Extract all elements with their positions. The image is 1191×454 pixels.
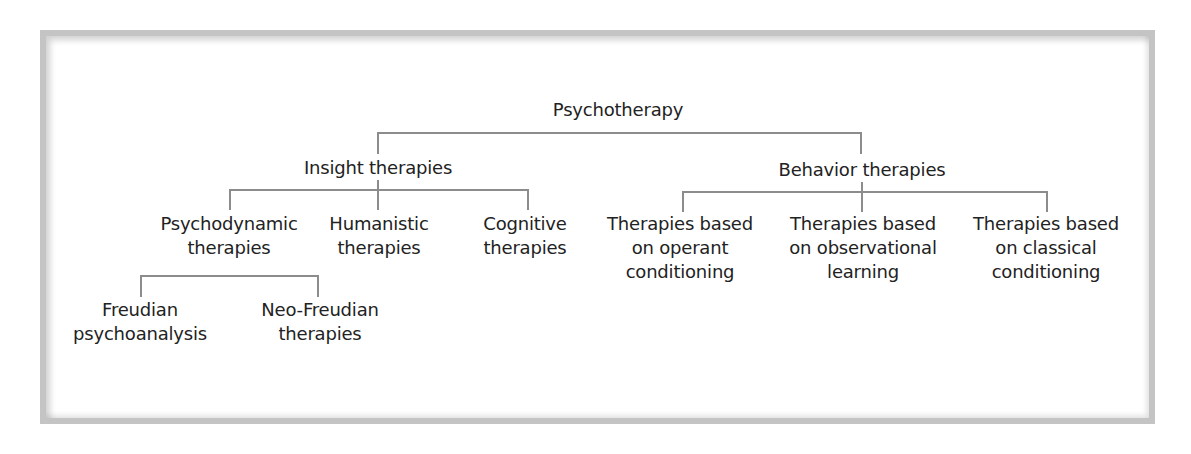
node-humanistic-therapies: Humanistic therapies	[314, 212, 444, 260]
node-label-line: therapies	[240, 322, 400, 346]
node-label-line: Psychodynamic	[144, 212, 314, 236]
node-label-line: Therapies based	[772, 212, 954, 236]
connector-insight-horizontal	[229, 189, 529, 191]
node-label-line: on classical	[956, 236, 1136, 260]
connector-root-to-insight	[377, 132, 379, 154]
node-label-line: psychoanalysis	[60, 322, 220, 346]
node-label-line: therapies	[314, 236, 444, 260]
node-insight-therapies: Insight therapies	[278, 156, 478, 180]
node-label-line: therapies	[460, 236, 590, 260]
node-psychotherapy: Psychotherapy	[518, 98, 718, 122]
node-label-line: therapies	[144, 236, 314, 260]
connector-behavior-horizontal	[682, 191, 1048, 193]
node-label-line: conditioning	[956, 260, 1136, 284]
connector-insight-to-psychodynamic	[229, 189, 231, 210]
connector-psychodynamic-to-freudian	[140, 275, 142, 297]
node-label: Insight therapies	[278, 156, 478, 180]
node-label-line: on operant	[590, 236, 770, 260]
node-label-line: on observational	[772, 236, 954, 260]
node-freudian-psychoanalysis: Freudian psychoanalysis	[60, 298, 220, 346]
connector-insight-to-humanistic	[377, 180, 379, 210]
connector-psychodynamic-horizontal	[140, 275, 319, 277]
node-label: Behavior therapies	[762, 158, 962, 182]
node-operant-conditioning: Therapies based on operant conditioning	[590, 212, 770, 284]
connector-behavior-to-operant	[682, 191, 684, 212]
connector-behavior-to-classical	[1046, 191, 1048, 212]
node-label-line: Neo-Freudian	[240, 298, 400, 322]
connector-root-to-behavior	[860, 132, 862, 154]
connector-root-horizontal	[377, 132, 862, 134]
node-label: Psychotherapy	[518, 98, 718, 122]
node-label-line: Therapies based	[956, 212, 1136, 236]
node-neo-freudian-therapies: Neo-Freudian therapies	[240, 298, 400, 346]
node-label-line: Therapies based	[590, 212, 770, 236]
connector-behavior-to-observational	[861, 182, 863, 212]
node-observational-learning: Therapies based on observational learnin…	[772, 212, 954, 284]
node-label-line: conditioning	[590, 260, 770, 284]
node-label-line: Freudian	[60, 298, 220, 322]
node-label-line: learning	[772, 260, 954, 284]
node-cognitive-therapies: Cognitive therapies	[460, 212, 590, 260]
node-psychodynamic-therapies: Psychodynamic therapies	[144, 212, 314, 260]
connector-insight-to-cognitive	[527, 189, 529, 210]
node-label-line: Cognitive	[460, 212, 590, 236]
node-behavior-therapies: Behavior therapies	[762, 158, 962, 182]
node-label-line: Humanistic	[314, 212, 444, 236]
node-classical-conditioning: Therapies based on classical conditionin…	[956, 212, 1136, 284]
connector-psychodynamic-to-neo-freudian	[317, 275, 319, 297]
